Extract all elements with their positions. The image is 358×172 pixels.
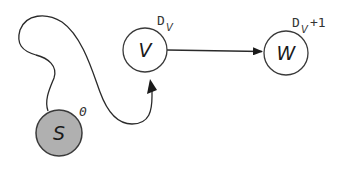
node-v: V [123, 28, 167, 72]
node-w-distance-label: D V +1 [292, 15, 326, 35]
svg-text:+1: +1 [310, 15, 326, 30]
svg-text:D: D [292, 15, 300, 30]
svg-text:V: V [166, 22, 174, 33]
node-w: W [264, 31, 308, 75]
edge-v-to-w [167, 50, 262, 52]
svg-text:V: V [301, 24, 309, 35]
svg-text:D: D [157, 13, 165, 28]
node-s-label: S [53, 122, 65, 144]
node-w-label: W [277, 42, 297, 64]
node-v-distance-label: D V [157, 13, 174, 33]
diagram-canvas: S 0 V D V W D V +1 [0, 0, 358, 172]
arrowhead-icon [147, 79, 157, 94]
node-s-distance-label: 0 [79, 104, 87, 119]
node-v-label: V [139, 39, 154, 61]
node-s: S [36, 110, 82, 156]
